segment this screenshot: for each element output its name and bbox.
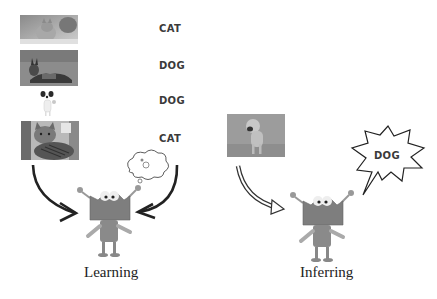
learning-caption: Learning	[84, 264, 138, 281]
prediction-label: DOG	[374, 150, 400, 161]
inferring-caption: Inferring	[300, 264, 353, 281]
arrow-left-icon	[33, 165, 76, 221]
diagram-graphics	[0, 0, 437, 299]
learning-robot-icon	[77, 185, 141, 257]
thought-cloud-icon	[128, 150, 169, 183]
inferring-robot-icon	[290, 190, 354, 262]
hollow-arrow-icon	[238, 166, 284, 214]
